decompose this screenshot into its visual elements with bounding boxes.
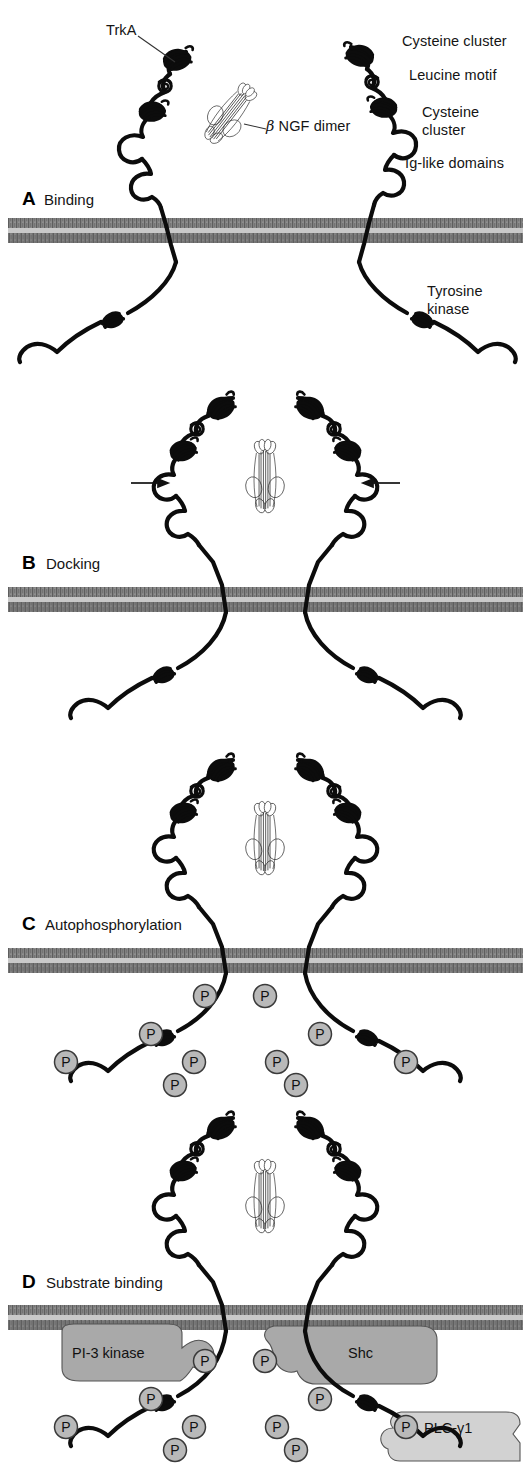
diagram-canvas: PPPPPPPPPP xyxy=(0,0,531,1463)
leader-line-trka xyxy=(138,36,175,62)
phosphate-glyph: P xyxy=(315,1391,324,1407)
label-tyrosine-kinase-line1: Tyrosine xyxy=(427,283,483,299)
cysteine-cluster-upper-left-b xyxy=(203,389,242,425)
phosphate-circle: P xyxy=(266,1051,289,1074)
phosphate-circle: P xyxy=(183,1051,206,1074)
phosphate-glyph: P xyxy=(401,1419,410,1435)
ngf-dimer-panel-b xyxy=(244,439,287,514)
phosphate-glyph: P xyxy=(189,1419,198,1435)
ngf-dimer-panel-d xyxy=(244,1159,287,1234)
phosphate-circle: P xyxy=(140,1023,163,1046)
phosphate-circle: P xyxy=(164,1439,187,1462)
label-ngf-dimer: β NGF dimer xyxy=(266,118,350,134)
tyrosine-kinase-left-b xyxy=(150,665,176,687)
phosphate-glyph: P xyxy=(200,1353,209,1369)
substrate-label-pi3-kinase: PI-3 kinase xyxy=(72,1345,145,1361)
label-tyrosine-kinase-line2: kinase xyxy=(427,301,470,317)
phosphate-circle: P xyxy=(285,1439,308,1462)
phosphate-circle: P xyxy=(285,1074,308,1097)
phosphate-circle: P xyxy=(55,1051,78,1074)
cysteine-cluster-upper-right-d xyxy=(289,1109,328,1145)
ngf-dimer-panel-c xyxy=(244,801,287,876)
panel-letter-b: B xyxy=(22,552,36,574)
phosphate-glyph: P xyxy=(260,988,269,1004)
tyrosine-kinase-right-d xyxy=(354,1393,380,1415)
phosphate-circle: P xyxy=(254,1350,277,1373)
panel-letter-d: D xyxy=(22,1271,36,1293)
phosphate-circle: P xyxy=(309,1023,332,1046)
phosphate-glyph: P xyxy=(291,1077,300,1093)
cysteine-cluster-lower-left-a xyxy=(137,98,171,124)
phosphate-circle: P xyxy=(183,1416,206,1439)
label-cysteine-cluster-1: Cysteine cluster xyxy=(402,33,507,49)
phosphate-glyph: P xyxy=(200,988,209,1004)
panel-letter-a: A xyxy=(22,188,36,210)
phosphate-glyph: P xyxy=(272,1054,281,1070)
substrate-label-plc-gamma1: PLC-γ1 xyxy=(424,1420,472,1436)
phosphate-circle: P xyxy=(395,1416,418,1439)
label-trka: TrkA xyxy=(106,22,136,38)
phosphate-glyph: P xyxy=(170,1077,179,1093)
phosphate-glyph: P xyxy=(401,1054,410,1070)
phosphate-circle: P xyxy=(194,985,217,1008)
tyrosine-kinase-left-a xyxy=(99,310,125,332)
cysteine-cluster-upper-right-a xyxy=(339,39,377,70)
membrane-panel-a xyxy=(8,218,523,243)
membrane-panel-c xyxy=(8,948,523,973)
phosphate-circle: P xyxy=(266,1416,289,1439)
cysteine-cluster-upper-right-c xyxy=(289,751,328,787)
phosphate-glyph: P xyxy=(146,1026,155,1042)
phosphate-glyph: P xyxy=(315,1026,324,1042)
tyrosine-kinase-right-b xyxy=(354,665,380,687)
figure-root: PPPPPPPPPP xyxy=(0,0,531,1463)
substrate-label-shc: Shc xyxy=(348,1345,373,1361)
ngf-dimer-panel-a xyxy=(192,74,267,154)
panel-caption-b: Docking xyxy=(46,555,100,572)
ngf-dimer-text: NGF dimer xyxy=(274,118,350,134)
panel-letter-c: C xyxy=(22,913,36,935)
membrane-panel-b xyxy=(8,587,523,612)
phosphate-circle: P xyxy=(55,1416,78,1439)
phosphate-circle: P xyxy=(194,1350,217,1373)
label-cysteine-cluster-2-line1: Cysteine xyxy=(422,104,479,120)
tyrosine-kinase-right-c xyxy=(354,1028,380,1050)
label-ig-like-domains: Ig-like domains xyxy=(405,155,504,171)
cysteine-cluster-upper-left-a xyxy=(160,43,198,74)
label-leucine-motif: Leucine motif xyxy=(409,67,497,83)
panel-caption-a: Binding xyxy=(44,191,94,208)
docking-arrow-left xyxy=(131,479,168,487)
phosphate-glyph: P xyxy=(146,1391,155,1407)
receptor-right-panel-b xyxy=(298,398,461,718)
phosphate-circle: P xyxy=(140,1388,163,1411)
cysteine-cluster-upper-left-d xyxy=(203,1109,242,1145)
leader-line-ngf xyxy=(244,124,266,129)
phosphate-glyph: P xyxy=(189,1054,198,1070)
phosphate-glyph: P xyxy=(61,1054,70,1070)
cysteine-cluster-upper-right-b xyxy=(289,389,328,425)
cysteine-cluster-lower-right-a xyxy=(365,94,399,120)
phosphate-circle: P xyxy=(309,1388,332,1411)
phosphate-glyph: P xyxy=(61,1419,70,1435)
phosphate-glyph: P xyxy=(170,1442,179,1458)
docking-arrow-right xyxy=(363,479,400,487)
phosphate-circle: P xyxy=(395,1051,418,1074)
panel-caption-c: Autophosphorylation xyxy=(45,916,182,933)
phosphate-glyph: P xyxy=(260,1353,269,1369)
phosphate-glyph: P xyxy=(272,1419,281,1435)
phosphate-glyph: P xyxy=(291,1442,300,1458)
phosphate-circle: P xyxy=(254,985,277,1008)
panel-b-graphics xyxy=(8,389,523,718)
cysteine-cluster-upper-left-c xyxy=(203,751,242,787)
label-cysteine-cluster-2-line2: cluster xyxy=(422,122,465,138)
phosphate-circle: P xyxy=(164,1074,187,1097)
panel-caption-d: Substrate binding xyxy=(46,1274,163,1291)
